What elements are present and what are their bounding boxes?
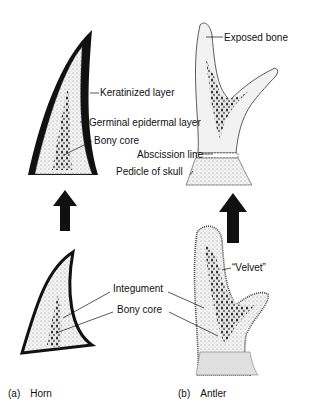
label-bony-core-horn-adult: Bony core xyxy=(94,135,139,146)
young-antler-drawing xyxy=(194,226,268,375)
label-integument: Integument xyxy=(113,283,163,294)
label-keratinized-layer: Keratinized layer xyxy=(100,87,174,98)
young-horn-drawing xyxy=(22,252,92,353)
caption-tag-a: (a) xyxy=(8,388,20,399)
growth-arrow-horn-icon xyxy=(53,190,77,231)
adult-antler-drawing xyxy=(186,23,278,185)
label-germinal-epidermal-layer: Germinal epidermal layer xyxy=(89,117,201,128)
caption-horn: (a)Horn xyxy=(8,388,52,399)
caption-title-antler: Antler xyxy=(200,388,226,399)
label-pedicle-of-skull: Pedicle of skull xyxy=(116,166,183,177)
label-velvet: “Velvet” xyxy=(232,262,266,273)
caption-tag-b: (b) xyxy=(178,388,190,399)
label-bony-core-young: Bony core xyxy=(117,304,162,315)
adult-horn-drawing xyxy=(28,30,98,175)
diagram-artwork xyxy=(0,0,311,410)
caption-title-horn: Horn xyxy=(30,388,52,399)
growth-arrow-antler-icon xyxy=(219,193,247,243)
label-abscission-line: Abscission line xyxy=(137,149,203,160)
caption-antler: (b)Antler xyxy=(178,388,226,399)
label-exposed-bone: Exposed bone xyxy=(224,32,288,43)
